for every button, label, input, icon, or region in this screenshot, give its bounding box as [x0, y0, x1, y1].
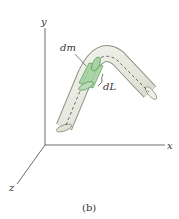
x-axis-label: x — [167, 140, 173, 151]
figure-caption: (b) — [82, 202, 96, 213]
bent-rod — [55, 54, 158, 134]
dL-label: dL — [103, 81, 116, 92]
z-axis — [17, 145, 45, 184]
y-axis-label: y — [40, 16, 47, 27]
z-axis-label: z — [8, 182, 15, 193]
coordinate-axes — [17, 28, 165, 184]
figure-canvas: y x z dm dL (b) — [0, 0, 179, 219]
dm-label: dm — [60, 42, 76, 53]
